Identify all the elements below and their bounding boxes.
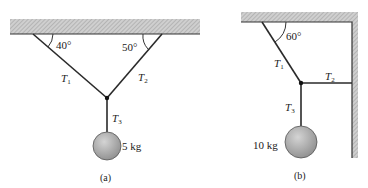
tension-label-t3-b: T3 [285,102,295,117]
angle-label-60: 60° [286,31,301,42]
wall-b [352,12,358,158]
knot-a [105,96,109,100]
tension-label-t2-a: T2 [138,72,148,87]
diagram-graphics [0,0,368,188]
mass-ball-a [93,132,121,160]
angle-arc-40 [48,34,53,47]
tension-label-t1-b: T1 [274,58,284,73]
caption-b: (b) [294,170,306,181]
mass-ball-b [285,126,317,158]
tension-label-t3-a: T3 [112,113,122,128]
tension-label-t1-a: T1 [61,73,71,88]
ceiling-a [10,19,200,34]
angle-label-50: 50° [122,42,137,53]
angle-arc-60 [275,22,286,42]
tension-label-t2-b: T2 [325,71,335,86]
caption-a: (a) [100,172,111,183]
mass-label-b: 10 kg [253,140,278,151]
mass-label-a: 5 kg [122,141,141,152]
figure-a [10,19,200,160]
knot-b [299,81,303,85]
angle-arc-50 [143,34,148,49]
ceiling-b [241,12,356,22]
tension-diagrams: 40° 50° T1 T2 T3 5 kg (a) 60° T1 T2 T3 1… [0,0,368,188]
angle-label-40: 40° [56,40,71,51]
